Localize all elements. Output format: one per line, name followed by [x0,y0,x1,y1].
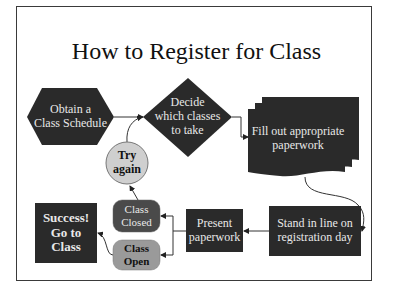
label-open: ClassOpen [113,240,160,270]
edge-decide-fill [232,117,248,137]
label-present: Presentpaperwork [186,209,243,252]
label-decide: Decidewhich classesto take [143,94,232,140]
label-obtain: Obtain aClass Schedule [27,98,114,136]
edge-present-open [161,231,173,255]
label-closed: ClassClosed [113,200,160,232]
label-fill: Fill out appropriatepaperwork [248,122,348,156]
label-try: Tryagain [106,142,148,184]
edge-try-decide [127,117,142,142]
edge-open-success [98,233,113,255]
label-stand: Stand in line onregistration day [269,206,361,256]
label-success: Success!Go toClass [35,203,97,263]
edge-present-closed [161,216,186,231]
edge-closed-try [130,186,138,200]
